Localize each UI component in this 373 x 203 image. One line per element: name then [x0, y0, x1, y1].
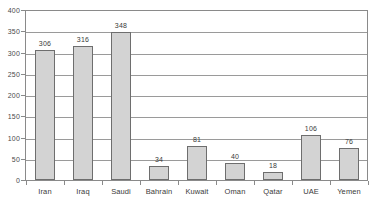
- bar[interactable]: [35, 50, 55, 180]
- y-tick-mark: [21, 138, 26, 139]
- x-axis-line: [25, 180, 368, 181]
- bar-group: 348: [111, 10, 131, 180]
- bar-group: 40: [225, 10, 245, 180]
- bar-group: 76: [339, 10, 359, 180]
- bar[interactable]: [111, 32, 131, 180]
- x-tick-mark: [368, 181, 369, 185]
- y-tick-mark: [21, 74, 26, 75]
- bar[interactable]: [149, 166, 169, 180]
- x-category-label: Saudi: [102, 187, 140, 196]
- y-tick-label: 0: [16, 177, 20, 184]
- bar[interactable]: [301, 135, 321, 180]
- y-tick-label: 300: [8, 49, 20, 56]
- bar[interactable]: [263, 172, 283, 180]
- bar[interactable]: [225, 163, 245, 180]
- x-tick-mark: [292, 181, 293, 185]
- bar-group: 306: [35, 10, 55, 180]
- bar-group: 34: [149, 10, 169, 180]
- bar-value-label: 40: [231, 153, 239, 161]
- y-tick-label: 100: [8, 134, 20, 141]
- x-category-label: Qatar: [254, 187, 292, 196]
- x-category-label: UAE: [292, 187, 330, 196]
- y-tick-mark: [21, 53, 26, 54]
- bar-group: 106: [301, 10, 321, 180]
- bars-layer: 3063163483481401810676: [26, 10, 368, 180]
- bar-group: 81: [187, 10, 207, 180]
- bar[interactable]: [73, 46, 93, 180]
- y-tick-label: 400: [8, 7, 20, 14]
- bar[interactable]: [339, 148, 359, 180]
- x-category-label: Iran: [26, 187, 64, 196]
- x-tick-mark: [216, 181, 217, 185]
- bar-group: 18: [263, 10, 283, 180]
- bar-value-label: 81: [193, 136, 201, 144]
- x-tick-mark: [140, 181, 141, 185]
- x-tick-mark: [254, 181, 255, 185]
- x-axis-category-labels: IranIraqSaudiBahrainKuwaitOmanQatarUAEYe…: [26, 187, 368, 201]
- bar-value-label: 106: [305, 125, 317, 133]
- x-category-label: Oman: [216, 187, 254, 196]
- bar[interactable]: [187, 146, 207, 180]
- y-tick-label: 200: [8, 92, 20, 99]
- y-tick-mark: [21, 95, 26, 96]
- x-tick-mark: [178, 181, 179, 185]
- bar-value-label: 348: [115, 22, 127, 30]
- x-tick-mark: [26, 181, 27, 185]
- bar-value-label: 316: [77, 36, 89, 44]
- x-tick-mark: [102, 181, 103, 185]
- y-tick-label: 250: [8, 70, 20, 77]
- y-tick-mark: [21, 31, 26, 32]
- y-tick-mark: [21, 116, 26, 117]
- bar-value-label: 34: [155, 156, 163, 164]
- bar-value-label: 76: [345, 138, 353, 146]
- x-category-label: Kuwait: [178, 187, 216, 196]
- y-tick-mark: [21, 159, 26, 160]
- bar-value-label: 306: [39, 40, 51, 48]
- x-tick-mark: [64, 181, 65, 185]
- bar-value-label: 18: [269, 162, 277, 170]
- bar-chart: 050100150200250300350400 306316348348140…: [0, 0, 373, 203]
- y-tick-label: 150: [8, 113, 20, 120]
- x-category-label: Yemen: [330, 187, 368, 196]
- x-category-label: Bahrain: [140, 187, 178, 196]
- bar-group: 316: [73, 10, 93, 180]
- x-category-label: Iraq: [64, 187, 102, 196]
- x-tick-mark: [330, 181, 331, 185]
- y-tick-label: 50: [12, 155, 20, 162]
- y-tick-mark: [21, 10, 26, 11]
- y-tick-label: 350: [8, 28, 20, 35]
